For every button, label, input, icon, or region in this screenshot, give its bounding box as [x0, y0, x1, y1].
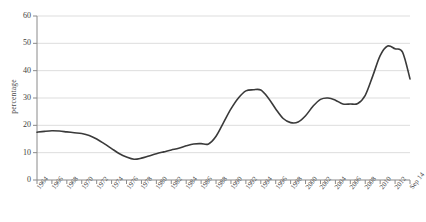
gridlines — [37, 16, 410, 153]
data-series-line — [37, 46, 410, 159]
axis-ticks — [33, 16, 410, 184]
